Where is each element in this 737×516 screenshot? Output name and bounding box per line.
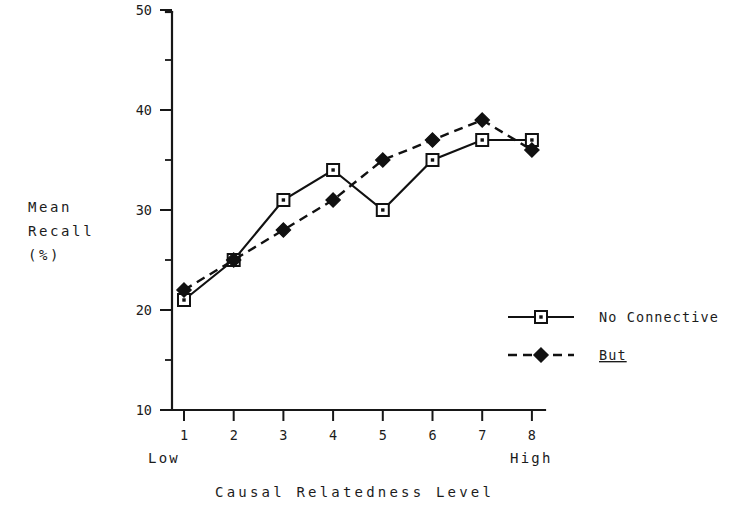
- y-axis-tick-labels: 1020304050: [136, 2, 152, 418]
- x-tick-label: 5: [379, 427, 387, 443]
- x-tick-label: 6: [428, 427, 436, 443]
- marker-open-square-center: [481, 138, 484, 141]
- x-axis-tick-labels: 12345678: [180, 427, 536, 443]
- y-axis-ticks: [160, 10, 172, 410]
- x-axis-title: Causal Relatedness Level: [215, 484, 494, 500]
- series-line: [184, 140, 532, 300]
- x-axis-ticks: [184, 410, 532, 421]
- x-tick-label: 1: [180, 427, 188, 443]
- y-tick-label: 10: [136, 402, 152, 418]
- y-tick-label: 20: [136, 302, 152, 318]
- y-axis-title-line-2: Recall: [28, 223, 94, 239]
- series-markers: [178, 134, 538, 306]
- marker-filled-diamond: [276, 223, 290, 237]
- legend-item-2[interactable]: But: [508, 347, 627, 363]
- marker-open-square-center: [381, 208, 384, 211]
- marker-open-square-center: [431, 158, 434, 161]
- legend: No ConnectiveBut: [508, 309, 719, 363]
- y-tick-label: 30: [136, 202, 152, 218]
- marker-filled-diamond: [475, 113, 489, 127]
- marker-open-square-center: [331, 168, 334, 171]
- x-tick-label: 8: [528, 427, 536, 443]
- line-chart: 1020304050 12345678 Mean Recall (%) Low …: [0, 0, 737, 516]
- marker-open-square-center: [530, 138, 533, 141]
- chart-container: 1020304050 12345678 Mean Recall (%) Low …: [0, 0, 737, 516]
- y-tick-label: 50: [136, 2, 152, 18]
- x-tick-label: 2: [230, 427, 238, 443]
- x-axis-low-label: Low: [148, 450, 180, 466]
- series-1: [178, 134, 538, 306]
- legend-item-1[interactable]: No Connective: [508, 309, 719, 325]
- x-axis-high-label: High: [510, 450, 553, 466]
- marker-filled-diamond: [425, 133, 439, 147]
- x-tick-label: 3: [279, 427, 287, 443]
- data-series-layer: [177, 113, 539, 306]
- legend-label: But: [599, 347, 627, 363]
- y-axis-title-line-3: (%): [28, 247, 61, 263]
- y-tick-label: 40: [136, 102, 152, 118]
- y-axis-title: Mean Recall (%): [28, 199, 94, 263]
- x-tick-label: 7: [478, 427, 486, 443]
- legend-label: No Connective: [599, 309, 719, 325]
- marker-open-square-center: [282, 198, 285, 201]
- marker-open-square-center: [539, 315, 542, 318]
- marker-filled-diamond: [534, 348, 548, 362]
- y-axis-title-line-1: Mean: [28, 199, 72, 215]
- axes-group: [166, 12, 545, 410]
- x-tick-label: 4: [329, 427, 337, 443]
- marker-open-square-center: [182, 298, 185, 301]
